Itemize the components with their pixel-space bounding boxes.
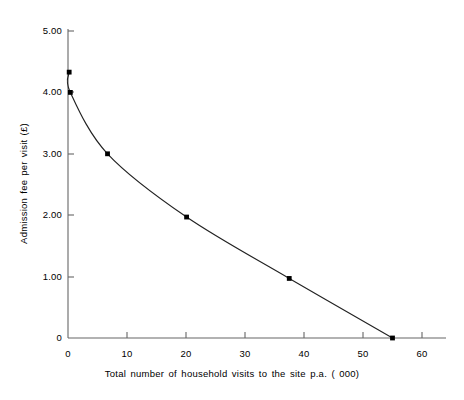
x-tick-marks [127,332,422,338]
x-tick-label-60: 60 [402,348,442,359]
data-point-1 [68,90,73,95]
y-tick-label-0: 0 [18,332,62,343]
data-point-5 [390,336,395,341]
x-tick-label-10: 10 [107,348,147,359]
x-tick-label-0: 0 [48,348,88,359]
x-tick-label-20: 20 [166,348,206,359]
demand-curve-plot [0,0,464,400]
data-point-markers [67,70,395,341]
data-point-2 [105,151,110,156]
y-tick-marks [68,31,74,277]
data-point-0 [67,70,72,75]
demand-curve-line [67,72,392,338]
x-tick-label-30: 30 [225,348,265,359]
axes-group [68,29,446,338]
x-tick-label-40: 40 [284,348,324,359]
y-axis-title: Admission fee per visit (£) [18,84,29,284]
chart-figure: 5.00 4.00 3.00 2.00 1.00 0 0 10 20 30 40… [0,0,464,400]
data-point-4 [287,276,292,281]
x-axis-title: Total number of household visits to the … [0,368,464,379]
data-point-3 [184,215,189,220]
y-tick-label-5: 5.00 [18,25,62,36]
x-tick-label-50: 50 [343,348,383,359]
